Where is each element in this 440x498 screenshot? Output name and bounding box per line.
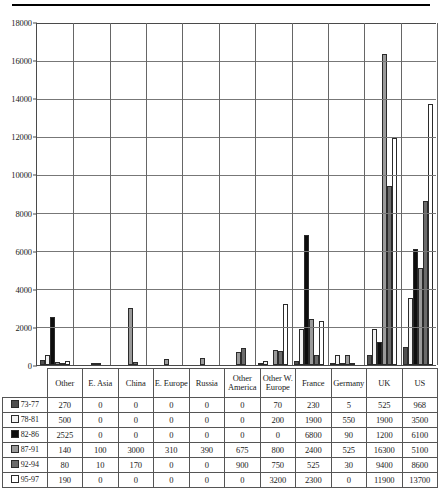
bar-group (255, 23, 291, 365)
y-tick-label: 8000 (15, 209, 37, 219)
data-table-wrapper: OtherE. AsiaChinaE. EuropeRussiaOther Am… (2, 368, 438, 488)
table-column-header: Other America (225, 369, 261, 398)
legend-label-text: 73-77 (21, 400, 39, 409)
legend-swatch-icon (11, 430, 19, 438)
bar (133, 362, 138, 365)
table-corner-cell (3, 369, 48, 398)
table-cell: 190 (47, 473, 83, 488)
y-gridline (37, 99, 436, 100)
table-cell: 0 (154, 473, 190, 488)
legend-label-text: 92-94 (21, 460, 39, 469)
legend-row-label: 92-94 (3, 458, 48, 473)
x-gridline (110, 23, 111, 365)
table-cell: 2300 (296, 473, 332, 488)
table-column-header: E. Europe (154, 369, 190, 398)
table-cell: 6100 (402, 428, 438, 443)
legend-label-text: 82-86 (21, 430, 39, 439)
y-gridline (37, 175, 436, 176)
legend-label-text: 95-97 (21, 475, 39, 484)
table-cell: 100 (83, 443, 119, 458)
y-gridline (37, 213, 436, 214)
table-cell: 0 (225, 398, 261, 413)
table-cell: 0 (154, 398, 190, 413)
data-table: OtherE. AsiaChinaE. EuropeRussiaOther Am… (2, 368, 438, 488)
table-cell: 10 (83, 458, 119, 473)
table-row: 87-9114010030003103906758002400525163005… (3, 443, 438, 458)
bar-group (218, 23, 254, 365)
y-tick-label: 6000 (15, 247, 37, 257)
table-cell: 11900 (367, 473, 403, 488)
y-tick-label: 18000 (11, 18, 37, 28)
table-row: 78-8150000000200190055019003500 (3, 413, 438, 428)
y-gridline (37, 251, 436, 252)
table-cell: 390 (189, 443, 225, 458)
legend-swatch-icon (11, 445, 19, 453)
y-tick-label: 4000 (15, 285, 37, 295)
table-cell: 80 (47, 458, 83, 473)
legend-row-label: 82-86 (3, 428, 48, 443)
table-cell: 0 (118, 398, 154, 413)
bar-groups (37, 23, 436, 365)
bar (350, 363, 355, 365)
table-cell: 230 (296, 398, 332, 413)
table-column-header: France (296, 369, 332, 398)
table-column-header: China (118, 369, 154, 398)
bar-group (182, 23, 218, 365)
table-cell: 675 (225, 443, 261, 458)
table-cell: 9400 (367, 458, 403, 473)
table-cell: 6800 (296, 428, 332, 443)
table-cell: 0 (83, 398, 119, 413)
legend-row-label: 73-77 (3, 398, 48, 413)
y-gridline (37, 327, 436, 328)
y-tick-label: 2000 (15, 323, 37, 333)
bar (283, 304, 288, 365)
table-cell: 1900 (296, 413, 332, 428)
bar-group (291, 23, 327, 365)
table-cell: 0 (83, 473, 119, 488)
bar-group (110, 23, 146, 365)
table-cell: 2400 (296, 443, 332, 458)
table-cell: 800 (260, 443, 296, 458)
table-cell: 0 (225, 413, 261, 428)
table-cell: 13700 (402, 473, 438, 488)
table-cell: 1900 (367, 413, 403, 428)
table-cell: 0 (189, 398, 225, 413)
table-cell: 0 (154, 458, 190, 473)
table-cell: 1200 (367, 428, 403, 443)
legend-label-text: 87-91 (21, 445, 39, 454)
plot-area: 0200040006000800010000120001400016000180… (36, 23, 436, 366)
legend-label-text: 78-81 (21, 415, 39, 424)
chart-page: 0200040006000800010000120001400016000180… (0, 0, 440, 498)
y-tick-label: 16000 (11, 56, 37, 66)
legend-swatch-icon (11, 415, 19, 423)
table-cell: 2525 (47, 428, 83, 443)
table-cell: 0 (118, 473, 154, 488)
table-cell: 3000 (118, 443, 154, 458)
table-cell: 3500 (402, 413, 438, 428)
table-row: 73-7727000000702305525968 (3, 398, 438, 413)
table-cell: 550 (331, 413, 367, 428)
legend-swatch-icon (11, 475, 19, 483)
bar-group (73, 23, 109, 365)
table-cell: 8600 (402, 458, 438, 473)
table-column-header: UK (367, 369, 403, 398)
x-gridline (73, 23, 74, 365)
table-cell: 0 (331, 473, 367, 488)
table-cell: 310 (154, 443, 190, 458)
bar (164, 359, 169, 365)
top-divider-rule (12, 4, 430, 6)
table-cell: 0 (260, 428, 296, 443)
table-column-header: US (402, 369, 438, 398)
bar-group (363, 23, 399, 365)
table-row: 92-948010170009007505253094008600 (3, 458, 438, 473)
table-cell: 525 (296, 458, 332, 473)
bar (200, 358, 205, 365)
table-head: OtherE. AsiaChinaE. EuropeRussiaOther Am… (3, 369, 438, 398)
x-gridline (146, 23, 147, 365)
table-cell: 3200 (260, 473, 296, 488)
y-gridline (37, 23, 436, 24)
table-row: 82-86252500000068009012006100 (3, 428, 438, 443)
table-cell: 16300 (367, 443, 403, 458)
table-cell: 0 (83, 413, 119, 428)
bar-chart: 0200040006000800010000120001400016000180… (0, 18, 440, 370)
